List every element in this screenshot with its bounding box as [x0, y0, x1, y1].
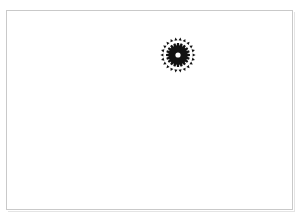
outer-ring-mark [189, 45, 192, 48]
outer-ring-mark [186, 65, 189, 68]
outer-ring-mark [186, 42, 189, 45]
outer-ring-mark [189, 62, 192, 65]
gear-center-hole [175, 52, 180, 57]
outer-ring-mark [192, 49, 195, 52]
outer-ring-mark [174, 38, 177, 41]
outer-ring-mark [161, 58, 164, 61]
outer-ring-mark [170, 68, 173, 71]
gear-rosette-svg [159, 36, 197, 74]
outer-ring-mark [166, 65, 169, 68]
page-canvas [0, 0, 301, 222]
gear-hub [166, 43, 190, 67]
outer-ring-mark [179, 38, 182, 41]
outer-ring-mark [183, 68, 186, 71]
outer-ring-mark [170, 39, 173, 42]
outer-ring-mark [174, 69, 177, 72]
outer-ring-mark [193, 53, 196, 56]
outer-ring-mark [163, 62, 166, 65]
figure-canvas [7, 11, 292, 209]
outer-ring-mark [161, 49, 164, 52]
outer-ring-mark [163, 45, 166, 48]
outer-ring-mark [192, 58, 195, 61]
outer-ring-mark [183, 39, 186, 42]
outer-ring-mark [160, 53, 163, 56]
outer-ring-mark [166, 42, 169, 45]
gear-rosette-emblem [159, 36, 197, 74]
outer-ring-mark [179, 69, 182, 72]
